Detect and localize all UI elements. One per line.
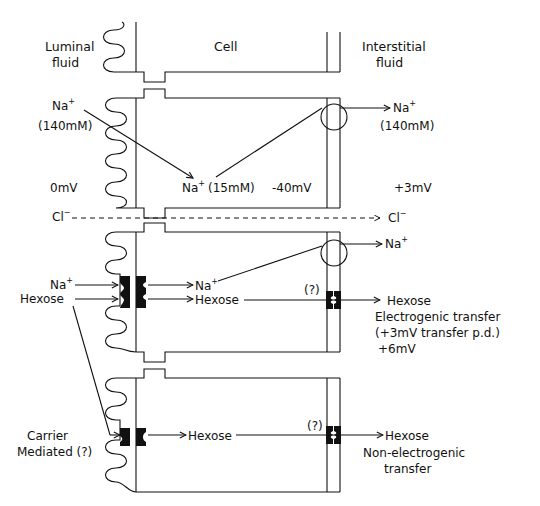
na-cell-label-2: Na+ <box>195 277 218 293</box>
cell-label: Cell <box>214 39 237 54</box>
na-in-label: Na+ <box>50 276 73 292</box>
cotransporter-carrier-outer <box>120 276 130 308</box>
na-out-label: Na+ <box>385 235 408 251</box>
hexose-out-label-3: Hexose <box>385 429 429 443</box>
transfer-pd-label: (+3mV transfer p.d.) <box>375 326 500 340</box>
brush-border-microvilli <box>104 22 137 492</box>
na-luminal-concentration: (140mM) <box>38 119 92 133</box>
na-entry-arrow <box>84 110 193 178</box>
interstitial-fluid-label: Interstitialfluid <box>362 39 426 70</box>
hexose-in-label: Hexose <box>20 292 64 306</box>
apical-carrier-outer <box>120 428 130 446</box>
na-interstitial-concentration: (140mM) <box>380 119 434 133</box>
basolateral-carrier-left <box>326 291 333 309</box>
carrier-path-line <box>73 306 110 435</box>
interstitial-potential: +3mV <box>394 181 432 195</box>
na-pump-path-line-2 <box>218 246 322 281</box>
uncertain-mark-3: (?) <box>307 419 323 433</box>
luminal-potential: 0mV <box>50 181 78 195</box>
cotransporter-carrier-inner <box>136 276 146 308</box>
uncertain-mark: (?) <box>304 283 320 297</box>
na-cell-label: Na+(15mM) <box>182 179 255 195</box>
hexose-cell-label-3: Hexose <box>188 429 232 443</box>
hexose-cell-label: Hexose <box>195 293 239 307</box>
chloride-pathway: Cl− Cl− <box>52 208 406 225</box>
luminal-fluid-label: Luminalfluid <box>45 39 94 70</box>
non-electrogenic-label: Non-electrogenictransfer <box>363 446 465 476</box>
apical-carrier-inner <box>136 428 146 446</box>
basolateral-carrier-left-3 <box>326 426 333 444</box>
epithelial-transport-diagram: Luminalfluid Cell Interstitialfluid Na+ … <box>0 0 540 506</box>
electrogenic-potential: +6mV <box>378 342 416 356</box>
chloride-interstitial-label: Cl− <box>388 209 406 225</box>
na-luminal-label: Na+ <box>52 97 75 113</box>
carrier-mediated-label: CarrierMediated (?) <box>17 429 92 459</box>
cell-potential: -40mV <box>272 181 312 195</box>
basolateral-carrier-right-3 <box>334 426 341 444</box>
na-pump-path-line <box>216 108 322 177</box>
section-electrogenic-transfer: Na+ Na+ Hexose Na+ Hexose (?) Hexose Ele… <box>20 235 500 356</box>
basolateral-carrier-right <box>334 291 341 309</box>
chloride-luminal-label: Cl− <box>52 208 70 224</box>
na-interstitial-label: Na+ <box>393 99 416 115</box>
section-sodium-gradient: Na+ (140mM) Na+(15mM) Na+ (140mM) 0mV -4… <box>38 97 434 195</box>
hexose-out-label: Hexose <box>387 294 431 308</box>
electrogenic-transfer-label: Electrogenic transfer <box>375 310 500 324</box>
